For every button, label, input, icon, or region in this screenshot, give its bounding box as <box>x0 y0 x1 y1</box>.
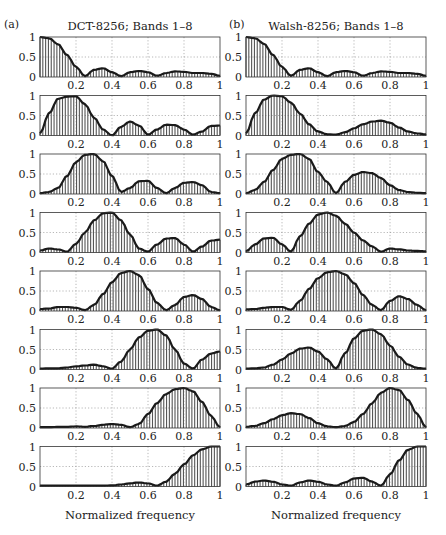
y-tick-label: 1 <box>235 265 242 278</box>
x-tick-label: 0.4 <box>309 372 327 385</box>
y-tick-label: 0.5 <box>19 402 37 415</box>
x-tick-label: 0.8 <box>381 196 399 209</box>
envelope-line <box>246 96 426 135</box>
x-tick-label: 0.2 <box>67 489 85 502</box>
y-tick-label: 0 <box>29 130 36 143</box>
y-tick-label: 1 <box>235 207 242 220</box>
y-tick-label: 0.5 <box>19 461 37 474</box>
x-tick-label: 0.2 <box>273 255 291 268</box>
y-tick-label: 1 <box>29 324 36 337</box>
y-tick-label: 1 <box>235 148 242 161</box>
x-tick-label: 0.8 <box>381 430 399 443</box>
y-tick-label: 0 <box>29 71 36 84</box>
x-tick-label: 0.4 <box>103 79 121 92</box>
y-tick-label: 1 <box>235 324 242 337</box>
envelope-line <box>246 154 426 193</box>
y-tick-label: 0 <box>29 305 36 318</box>
y-tick-label: 0.5 <box>225 227 243 240</box>
x-tick-label: 0.4 <box>103 489 121 502</box>
y-tick-label: 0 <box>235 130 242 143</box>
envelope-line <box>246 388 426 427</box>
y-tick-label: 0 <box>235 422 242 435</box>
x-tick-label: 0.4 <box>103 313 121 326</box>
envelope-line <box>246 447 426 486</box>
y-tick-label: 0 <box>235 364 242 377</box>
y-tick-label: 0 <box>235 305 242 318</box>
x-tick-label: 0.8 <box>381 138 399 151</box>
right-x-axis-label: Normalized frequency <box>246 508 426 522</box>
x-tick-label: 1 <box>217 489 224 502</box>
y-tick-label: 0.5 <box>19 110 37 123</box>
x-tick-label: 0.2 <box>273 138 291 151</box>
y-tick-label: 0.5 <box>225 285 243 298</box>
y-tick-label: 0 <box>29 364 36 377</box>
x-tick-label: 0.4 <box>309 313 327 326</box>
x-tick-label: 1 <box>423 255 430 268</box>
x-tick-label: 0.6 <box>139 196 157 209</box>
y-tick-label: 0.5 <box>225 168 243 181</box>
x-tick-label: 0.6 <box>139 489 157 502</box>
x-tick-label: 1 <box>423 79 430 92</box>
envelope-line <box>40 388 220 427</box>
y-tick-label: 0.5 <box>19 168 37 181</box>
x-tick-label: 0.2 <box>67 79 85 92</box>
x-tick-label: 0.4 <box>309 138 327 151</box>
x-tick-label: 1 <box>423 313 430 326</box>
x-tick-label: 0.2 <box>67 255 85 268</box>
envelope-line <box>246 37 426 76</box>
x-tick-label: 0.8 <box>381 313 399 326</box>
left-x-axis-label: Normalized frequency <box>40 508 220 522</box>
x-tick-label: 0.6 <box>345 489 363 502</box>
x-tick-label: 0.4 <box>103 138 121 151</box>
y-tick-label: 0 <box>29 188 36 201</box>
y-tick-label: 0 <box>235 71 242 84</box>
x-tick-label: 1 <box>217 313 224 326</box>
y-tick-label: 1 <box>29 148 36 161</box>
envelope-line <box>40 154 220 193</box>
x-tick-label: 0.2 <box>67 430 85 443</box>
x-tick-label: 0.8 <box>381 255 399 268</box>
y-tick-label: 1 <box>29 382 36 395</box>
y-tick-label: 1 <box>235 90 242 103</box>
x-tick-label: 0.6 <box>139 430 157 443</box>
y-tick-label: 1 <box>29 441 36 454</box>
x-tick-label: 0.2 <box>67 138 85 151</box>
x-tick-label: 0.6 <box>345 138 363 151</box>
x-tick-label: 1 <box>217 138 224 151</box>
x-tick-label: 0.4 <box>309 430 327 443</box>
y-tick-label: 0 <box>235 481 242 494</box>
x-tick-label: 0.6 <box>345 255 363 268</box>
x-tick-label: 1 <box>423 430 430 443</box>
x-tick-label: 0.2 <box>273 313 291 326</box>
x-tick-label: 0.8 <box>175 313 193 326</box>
x-tick-label: 0.4 <box>103 372 121 385</box>
envelope-line <box>40 37 220 76</box>
x-tick-label: 0.6 <box>345 313 363 326</box>
x-tick-label: 0.8 <box>381 79 399 92</box>
y-tick-label: 1 <box>235 31 242 44</box>
envelope-line <box>246 330 426 369</box>
x-tick-label: 0.4 <box>309 255 327 268</box>
y-tick-label: 1 <box>235 441 242 454</box>
y-tick-label: 0.5 <box>19 285 37 298</box>
x-tick-label: 1 <box>217 430 224 443</box>
y-tick-label: 0.5 <box>19 227 37 240</box>
y-tick-label: 1 <box>29 90 36 103</box>
x-tick-label: 1 <box>423 489 430 502</box>
x-tick-label: 0.6 <box>345 372 363 385</box>
y-tick-label: 1 <box>29 265 36 278</box>
y-tick-label: 0 <box>235 188 242 201</box>
x-tick-label: 0.6 <box>139 138 157 151</box>
x-tick-label: 1 <box>423 372 430 385</box>
x-tick-label: 0.8 <box>381 372 399 385</box>
y-tick-label: 0 <box>235 247 242 260</box>
x-tick-label: 0.4 <box>103 430 121 443</box>
x-tick-label: 0.2 <box>67 196 85 209</box>
y-tick-label: 0.5 <box>225 402 243 415</box>
y-tick-label: 0 <box>29 247 36 260</box>
x-tick-label: 0.8 <box>175 138 193 151</box>
x-tick-label: 0.4 <box>103 196 121 209</box>
y-tick-label: 0.5 <box>225 344 243 357</box>
y-tick-label: 0.5 <box>225 51 243 64</box>
y-tick-label: 1 <box>29 31 36 44</box>
